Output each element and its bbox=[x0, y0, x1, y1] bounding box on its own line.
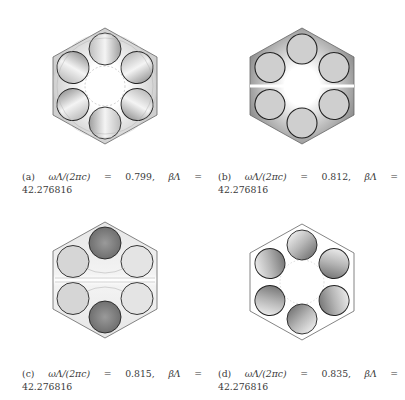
caption-label: (b) bbox=[218, 170, 231, 183]
panel-a: (a) ωΛ/(2πc) = 0.799, βΛ = 42.276816 bbox=[0, 0, 200, 200]
equals-sign: = bbox=[300, 170, 308, 183]
core-region bbox=[284, 68, 320, 104]
caption-a: (a) ωΛ/(2πc) = 0.799, βΛ = 42.276816 bbox=[22, 170, 202, 196]
panel-c: (c) ωΛ/(2πc) = 0.815, βΛ = 42.276816 bbox=[0, 200, 200, 400]
beta-value: 42.276816 bbox=[218, 380, 398, 393]
field-plot-a bbox=[45, 22, 165, 150]
freq-value: 0.835, bbox=[321, 367, 351, 380]
freq-value: 0.812, bbox=[321, 170, 351, 183]
field-plot-d bbox=[242, 218, 362, 346]
freq-value: 0.815, bbox=[125, 367, 155, 380]
freq-expr: ωΛ/(2πc) bbox=[48, 367, 90, 380]
beta-expr: βΛ bbox=[168, 367, 180, 380]
field-plot-c bbox=[45, 216, 165, 344]
freq-expr: ωΛ/(2πc) bbox=[245, 367, 287, 380]
equals-sign: = bbox=[104, 170, 112, 183]
beta-value: 42.276816 bbox=[218, 183, 398, 196]
beta-value: 42.276816 bbox=[22, 183, 202, 196]
equals-sign: = bbox=[300, 367, 308, 380]
caption-label: (a) bbox=[22, 170, 35, 183]
equals-sign: = bbox=[104, 367, 112, 380]
equals-sign: = bbox=[390, 170, 398, 183]
freq-value: 0.799, bbox=[125, 170, 155, 183]
panel-d: (d) ωΛ/(2πc) = 0.835, βΛ = 42.276816 bbox=[200, 200, 405, 400]
beta-expr: βΛ bbox=[168, 170, 180, 183]
freq-expr: ωΛ/(2πc) bbox=[48, 170, 90, 183]
caption-label: (d) bbox=[218, 367, 231, 380]
caption-d: (d) ωΛ/(2πc) = 0.835, βΛ = 42.276816 bbox=[218, 367, 398, 393]
beta-expr: βΛ bbox=[365, 170, 377, 183]
caption-label: (c) bbox=[22, 367, 34, 380]
equals-sign: = bbox=[390, 367, 398, 380]
freq-expr: ωΛ/(2πc) bbox=[245, 170, 287, 183]
field-plot-b bbox=[242, 22, 362, 150]
beta-expr: βΛ bbox=[365, 367, 377, 380]
panel-b: (b) ωΛ/(2πc) = 0.812, βΛ = 42.276816 bbox=[200, 0, 405, 200]
caption-c: (c) ωΛ/(2πc) = 0.815, βΛ = 42.276816 bbox=[22, 367, 202, 393]
caption-b: (b) ωΛ/(2πc) = 0.812, βΛ = 42.276816 bbox=[218, 170, 398, 196]
beta-value: 42.276816 bbox=[22, 380, 202, 393]
